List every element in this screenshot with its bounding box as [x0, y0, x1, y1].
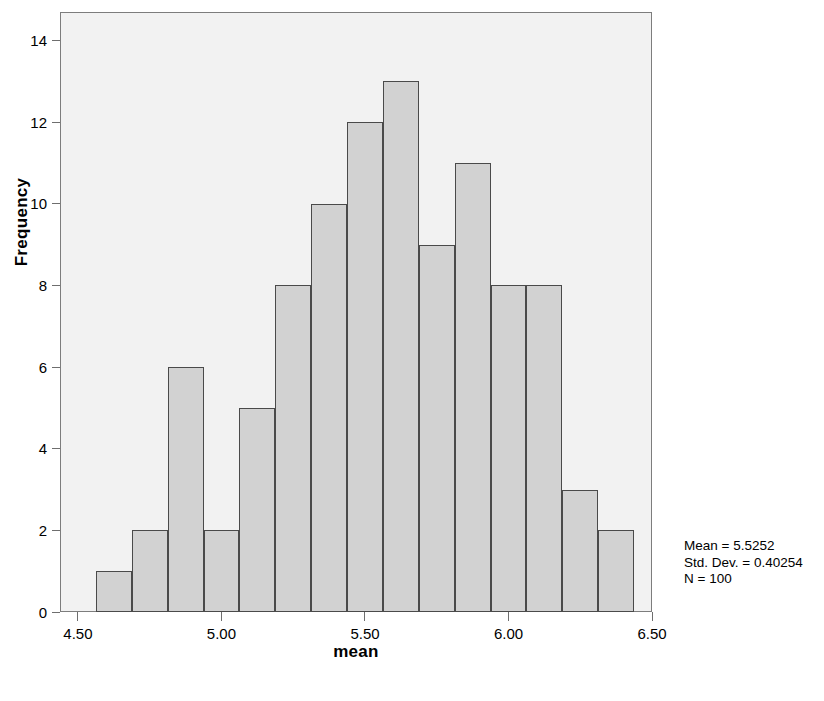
x-axis-tick-label: 6.00	[494, 626, 523, 641]
x-axis-tick-mark	[221, 612, 222, 621]
y-axis-title: Frequency	[12, 142, 32, 302]
y-axis-tick-mark	[52, 203, 60, 204]
y-axis-tick-label: 14	[30, 33, 52, 48]
histogram-chart: Frequency 02468101214 4.505.005.506.006.…	[0, 0, 824, 701]
y-axis-tick-label: 10	[30, 196, 52, 211]
x-axis-tick-mark	[77, 612, 78, 621]
stat-mean: Mean = 5.5252	[684, 538, 803, 555]
x-axis-tick-label: 4.50	[63, 626, 92, 641]
y-axis-tick-mark	[52, 367, 60, 368]
x-axis-tick-mark	[652, 612, 653, 621]
x-axis-tick-label: 5.50	[350, 626, 379, 641]
y-axis-tick-label: 2	[39, 523, 52, 538]
y-axis-tick-label: 4	[39, 441, 52, 456]
x-axis-tick-label: 6.50	[637, 626, 666, 641]
x-axis-tick-mark	[508, 612, 509, 621]
x-axis-title: mean	[60, 642, 652, 662]
y-axis-tick-mark	[52, 40, 60, 41]
stat-n: N = 100	[684, 571, 803, 588]
y-axis-tick-label: 6	[39, 360, 52, 375]
y-axis-tick-mark	[52, 285, 60, 286]
stat-std-dev: Std. Dev. = 0.40254	[684, 555, 803, 572]
x-axis-tick-mark	[364, 612, 365, 621]
y-axis: Frequency 02468101214	[0, 0, 60, 701]
plot-area	[60, 12, 652, 612]
y-axis-tick-label: 8	[39, 278, 52, 293]
y-axis-tick-label: 12	[30, 115, 52, 130]
y-axis-tick-mark	[52, 530, 60, 531]
statistics-annotation: Mean = 5.5252 Std. Dev. = 0.40254 N = 10…	[684, 538, 803, 588]
x-axis-tick-label: 5.00	[207, 626, 236, 641]
y-axis-tick-mark	[52, 448, 60, 449]
y-axis-tick-mark	[52, 122, 60, 123]
